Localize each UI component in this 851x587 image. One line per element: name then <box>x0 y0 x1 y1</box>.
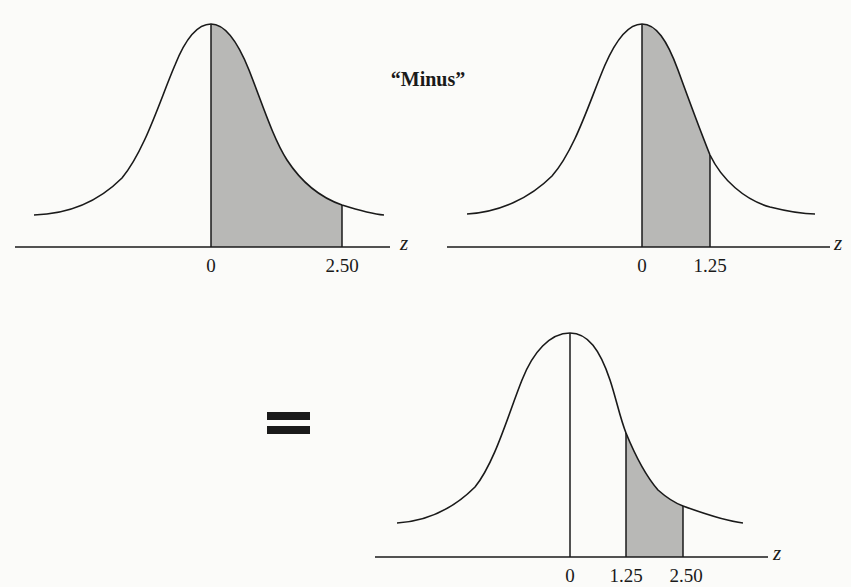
chart-2: 0 1.25 z <box>447 24 842 276</box>
chart-1-z-label: z <box>399 231 408 255</box>
minus-label: “Minus” <box>391 68 465 90</box>
chart-1-tick-250: 2.50 <box>325 255 358 276</box>
chart-2-tick-0: 0 <box>637 255 647 276</box>
chart-2-shaded-area <box>642 24 710 247</box>
chart-1-tick-0: 0 <box>206 255 216 276</box>
chart-2-tick-125: 1.25 <box>693 255 726 276</box>
chart-3-z-label: z <box>772 541 781 565</box>
chart-3-tick-0: 0 <box>565 565 575 586</box>
chart-3-tick-125: 1.25 <box>609 565 642 586</box>
chart-3: 0 1.25 2.50 z <box>375 333 781 586</box>
chart-1-shaded-area <box>211 24 342 247</box>
chart-1-curve <box>34 24 384 215</box>
chart-1: 0 2.50 z <box>15 24 408 276</box>
equals-icon <box>267 412 310 434</box>
normal-curve-diagram: 0 2.50 z “Minus” 0 1.25 z 0 1.25 2.50 z <box>0 0 851 587</box>
chart-2-z-label: z <box>833 231 842 255</box>
chart-2-curve <box>467 24 815 214</box>
chart-3-tick-250: 2.50 <box>669 565 702 586</box>
